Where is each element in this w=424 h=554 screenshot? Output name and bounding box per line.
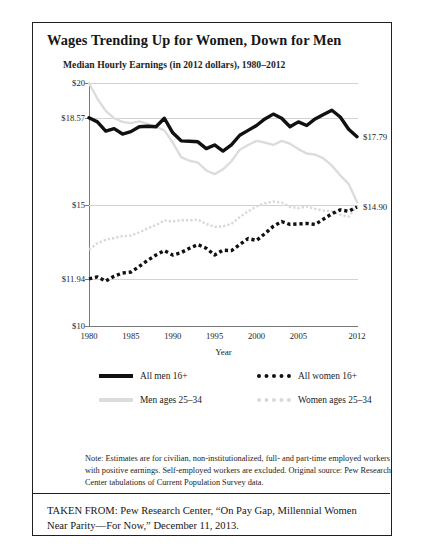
y-tick-label: $11.94: [33, 274, 85, 284]
legend-label: Women ages 25–34: [298, 395, 372, 405]
x-tick-label: 1990: [164, 331, 181, 341]
x-tick-label: 2012: [348, 331, 365, 341]
legend-item: All men 16+: [99, 371, 187, 381]
x-tick-label: 2005: [290, 331, 307, 341]
chart-legend: All men 16+All women 16+Men ages 25–34Wo…: [89, 371, 389, 421]
figure-page: Wages Trending Up for Women, Down for Me…: [0, 0, 424, 554]
gridline: [89, 279, 358, 280]
series-line: [89, 207, 357, 281]
chart-subtitle: Median Hourly Earnings (in 2012 dollars)…: [63, 59, 385, 70]
legend-swatch-icon: [99, 374, 133, 378]
legend-item: Men ages 25–34: [99, 395, 202, 405]
x-axis-title: Year: [89, 347, 358, 357]
y-tick-mark: [85, 279, 89, 280]
series-end-label: $14.90: [363, 202, 387, 212]
y-tick-label: $15: [33, 200, 85, 210]
legend-swatch-icon: [257, 398, 291, 402]
legend-item: All women 16+: [257, 371, 357, 381]
series-line: [89, 83, 357, 202]
x-tick-label: 1980: [80, 331, 97, 341]
legend-item: Women ages 25–34: [257, 395, 372, 405]
y-tick-label: $18.57: [33, 113, 85, 123]
chart-container: $20$18.57$15$11.94$10 198019851990199520…: [33, 75, 391, 375]
y-tick-mark: [85, 83, 89, 84]
series-plot-area: [33, 75, 391, 375]
source-attribution: TAKEN FROM: Pew Research Center, “On Pay…: [47, 503, 377, 534]
x-tick-label: 1985: [122, 331, 139, 341]
chart-note: Note: Estimates are for civilian, non-in…: [85, 453, 391, 488]
series-end-label: $17.79: [363, 132, 387, 142]
y-tick-label: $20: [33, 78, 85, 88]
gridline: [89, 83, 358, 84]
x-tick-label: 1995: [206, 331, 223, 341]
legend-swatch-icon: [99, 398, 133, 402]
gridline: [89, 118, 358, 119]
legend-swatch-icon: [257, 374, 291, 378]
legend-label: All women 16+: [298, 371, 357, 381]
x-axis-line: [89, 326, 358, 327]
legend-label: Men ages 25–34: [140, 395, 202, 405]
page-title: Wages Trending Up for Women, Down for Me…: [47, 32, 383, 49]
series-line: [89, 202, 357, 250]
x-tick-label: 2000: [248, 331, 265, 341]
y-tick-mark: [85, 326, 89, 327]
y-tick-mark: [85, 118, 89, 119]
figure-frame: Wages Trending Up for Women, Down for Me…: [32, 22, 392, 536]
legend-label: All men 16+: [140, 371, 187, 381]
section-divider: [33, 493, 390, 494]
y-tick-mark: [85, 205, 89, 206]
series-line: [89, 110, 357, 151]
gridline: [89, 205, 358, 206]
y-tick-label: $10: [33, 321, 85, 331]
